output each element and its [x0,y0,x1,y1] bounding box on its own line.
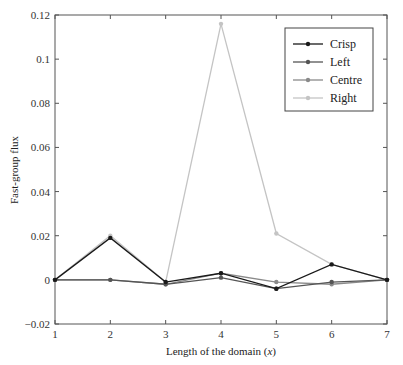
data-point-marker [274,286,278,290]
y-tick-label: 0.1 [36,53,50,65]
data-point-marker [274,280,278,284]
x-axis-label: Length of the domain (x) [166,345,276,358]
x-tick-label: 2 [108,328,114,340]
legend-label: Right [330,91,357,105]
y-tick-label: 0 [45,274,51,286]
x-tick-label: 1 [52,328,58,340]
x-tick-label: 4 [218,328,224,340]
x-tick-label: 7 [384,328,390,340]
data-point-marker [219,271,223,275]
x-tick-label: 3 [163,328,169,340]
legend-marker-icon [306,60,310,64]
y-axis-label: Fast-group flux [8,135,20,204]
x-tick-label: 5 [274,328,280,340]
data-point-marker [219,275,223,279]
legend: CrispLeftCentreRight [285,28,373,111]
y-tick-label: 0.06 [31,141,51,153]
x-tick-label: 6 [329,328,335,340]
y-tick-label: 0.04 [31,186,51,198]
legend-marker-icon [306,96,310,100]
data-point-marker [108,236,112,240]
data-point-marker [53,278,57,282]
data-point-marker [329,262,333,266]
legend-marker-icon [306,42,310,46]
legend-marker-icon [306,78,310,82]
data-point-marker [274,231,278,235]
y-tick-label: 0.08 [31,97,51,109]
y-tick-label: 0.12 [31,9,50,21]
line-chart: −0.0200.020.040.060.080.10.12 1234567 Fa… [0,0,403,365]
data-point-marker [329,280,333,284]
data-point-marker [219,22,223,26]
y-tick-label: 0.02 [31,230,50,242]
data-point-marker [385,278,389,282]
legend-label: Crisp [330,37,356,51]
y-tick-label: −0.02 [25,318,50,330]
data-point-marker [108,278,112,282]
legend-label: Centre [330,73,362,87]
data-point-marker [163,280,167,284]
legend-label: Left [330,55,351,69]
